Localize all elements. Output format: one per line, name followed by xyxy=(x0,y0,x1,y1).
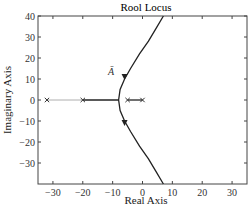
y-tick-label: −20 xyxy=(19,137,35,148)
lower-branch xyxy=(119,100,164,184)
annotation-label: Ā xyxy=(107,66,115,77)
x-tick-label: 20 xyxy=(197,187,207,198)
x-axis-label: Real Axis xyxy=(124,194,167,206)
y-axis-ticks: 403020100−10−20−30 xyxy=(19,11,247,169)
y-tick-label: 40 xyxy=(25,11,35,22)
root-locus-chart: Rool Locus −30−20−100102030 403020100−10… xyxy=(0,0,249,207)
y-tick-label: 0 xyxy=(30,95,35,106)
x-axis-ticks: −30−20−100102030 xyxy=(45,16,237,198)
y-axis-label: Imaginary Axis xyxy=(1,66,13,134)
y-tick-label: 30 xyxy=(25,32,35,43)
y-tick-label: 20 xyxy=(25,53,35,64)
x-tick-label: −10 xyxy=(105,187,121,198)
direction-arrow-icon xyxy=(122,74,128,80)
y-tick-label: 10 xyxy=(25,74,35,85)
x-tick-label: −20 xyxy=(75,187,91,198)
x-tick-label: 10 xyxy=(167,187,177,198)
x-tick-label: 30 xyxy=(227,187,237,198)
x-tick-label: −30 xyxy=(45,187,61,198)
upper-branch xyxy=(119,16,164,100)
chart-title: Rool Locus xyxy=(120,1,171,13)
y-tick-label: −10 xyxy=(19,116,35,127)
y-tick-label: −30 xyxy=(19,158,35,169)
plot-area: Ā xyxy=(45,16,164,184)
